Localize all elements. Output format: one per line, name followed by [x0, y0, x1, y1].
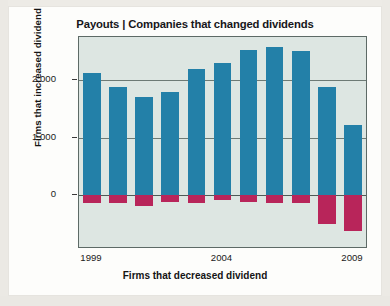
bar-decreased-2002 — [161, 195, 179, 202]
y-tick-label: 2,000 — [10, 73, 56, 84]
bar-decreased-2001 — [135, 195, 153, 205]
bar-decreased-2005 — [240, 195, 258, 202]
bar-increased-2005 — [240, 50, 258, 195]
paper-edge-right — [382, 0, 390, 306]
bar-increased-1999 — [83, 73, 101, 195]
chart-card: Payouts | Companies that changed dividen… — [8, 6, 382, 296]
chart-title: Payouts | Companies that changed dividen… — [8, 18, 382, 30]
bar-decreased-2000 — [109, 195, 127, 203]
bar-increased-2009 — [344, 125, 362, 196]
bar-decreased-2004 — [214, 195, 232, 200]
bar-decreased-2007 — [292, 195, 310, 203]
bar-increased-2002 — [161, 92, 179, 195]
paper-edge-bottom — [0, 296, 390, 306]
paper-edge-left — [0, 0, 8, 306]
y-tick-label: 1,000 — [10, 131, 56, 142]
bar-decreased-2006 — [266, 195, 284, 203]
y-tick-mark — [72, 137, 77, 138]
bar-decreased-1999 — [83, 195, 101, 203]
x-tick-label: 1999 — [71, 252, 111, 263]
x-axis-label: Firms that decreased dividend — [8, 270, 382, 281]
bar-decreased-2003 — [188, 195, 206, 203]
bar-increased-2003 — [188, 69, 206, 195]
bar-increased-2004 — [214, 63, 232, 195]
plot-inner — [79, 37, 366, 247]
plot-area — [78, 36, 367, 248]
bar-decreased-2009 — [344, 195, 362, 231]
x-tick-label: 2004 — [202, 252, 242, 263]
y-tick-mark — [72, 79, 77, 80]
chart-figure: Payouts | Companies that changed dividen… — [0, 0, 390, 306]
bar-increased-2001 — [135, 97, 153, 195]
bar-increased-2007 — [292, 51, 310, 195]
y-tick-mark — [72, 194, 77, 195]
x-tick-label: 2009 — [332, 252, 372, 263]
bar-decreased-2008 — [318, 195, 336, 224]
bar-increased-2000 — [109, 87, 127, 195]
bar-increased-2008 — [318, 87, 336, 196]
y-tick-label: 0 — [10, 188, 56, 199]
bar-increased-2006 — [266, 47, 284, 195]
